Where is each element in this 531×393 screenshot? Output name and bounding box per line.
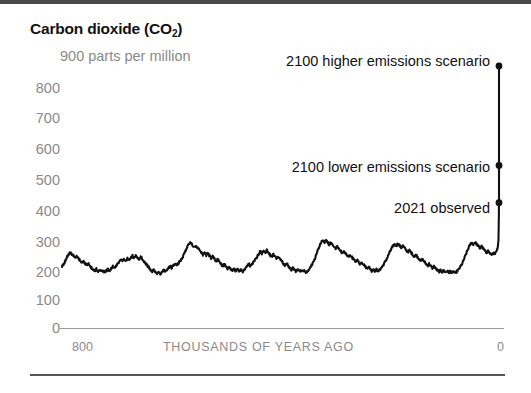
co2-ice-core-curve	[62, 203, 499, 275]
x-axis-title: THOUSANDS OF YEARS AGO	[163, 340, 354, 354]
x-tick-800: 800	[72, 340, 93, 354]
marker-dot-2021-observed	[496, 199, 503, 206]
x-tick-0: 0	[497, 340, 504, 354]
figure-container: Carbon dioxide (CO2) 900 parts per milli…	[0, 0, 531, 393]
bottom-divider-rule	[30, 374, 505, 376]
plot-area	[0, 0, 531, 393]
